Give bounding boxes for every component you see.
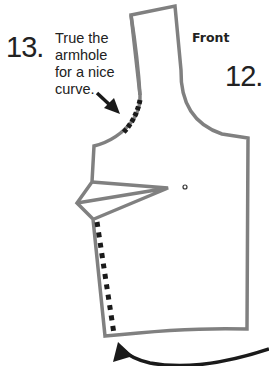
armhole-dotted-line bbox=[122, 100, 140, 134]
instruction-line: curve. bbox=[55, 81, 125, 98]
step-12-number: 12. bbox=[225, 62, 262, 91]
bust-point-marker bbox=[183, 185, 187, 189]
front-label: Front bbox=[192, 30, 229, 45]
instruction-line: for a nice bbox=[55, 64, 125, 81]
instruction-line: True the bbox=[55, 30, 125, 47]
instruction-line: armhole bbox=[55, 47, 125, 64]
curved-arrow-icon bbox=[113, 342, 269, 366]
step-13-number: 13. bbox=[6, 33, 43, 62]
step-13-instruction: True the armhole for a nice curve. bbox=[55, 30, 125, 98]
strap-left-edge bbox=[131, 15, 140, 95]
bust-dart bbox=[77, 182, 168, 219]
